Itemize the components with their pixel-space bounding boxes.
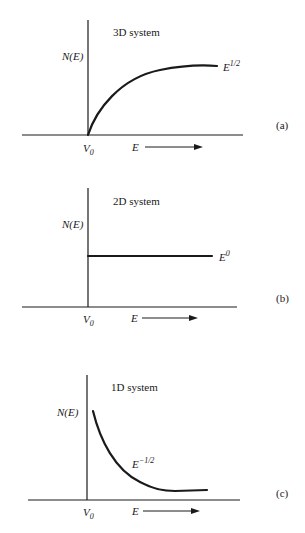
curve-label: E0 [218, 249, 230, 263]
panel-3d: 3D system N(E) E1/2 V0 E (a) [22, 20, 289, 157]
origin-label: V0 [83, 142, 94, 157]
density-of-states-figure: 3D system N(E) E1/2 V0 E (a) 2D system N… [0, 0, 305, 533]
panel-tag: (b) [276, 292, 289, 305]
panel-1d: 1D system N(E) E−1/2 V0 E (c) [28, 375, 289, 521]
panel-tag: (a) [276, 119, 289, 132]
x-axis-label: E [130, 312, 138, 324]
panel-title: 3D system [113, 26, 160, 38]
x-axis-label: E [131, 505, 139, 517]
arrowhead-icon [189, 315, 198, 321]
arrowhead-icon [194, 144, 203, 150]
panel-title: 1D system [111, 381, 158, 393]
y-axis-label: N(E) [61, 50, 84, 63]
y-axis-label: N(E) [56, 406, 79, 419]
panel-tag: (c) [276, 487, 289, 500]
panel-title: 2D system [113, 195, 160, 207]
x-axis-label: E [131, 141, 139, 153]
curve-label: E1/2 [222, 59, 240, 73]
inverse-sqrt-curve [93, 411, 207, 491]
curve-label: E−1/2 [131, 456, 154, 470]
arrowhead-icon [191, 508, 200, 514]
y-axis-label: N(E) [61, 218, 84, 231]
origin-label: V0 [83, 313, 94, 328]
origin-label: V0 [83, 506, 94, 521]
panel-2d: 2D system N(E) E0 V0 E (b) [22, 188, 289, 328]
sqrt-curve [88, 65, 217, 135]
